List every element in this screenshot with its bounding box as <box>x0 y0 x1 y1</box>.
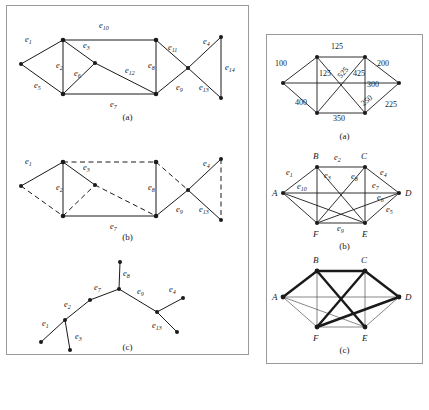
right-panel-b: A B C D E F e1 e2 e3 e4 e5 e6 e7 e8 e9 e… <box>267 145 422 255</box>
vertex <box>63 318 67 322</box>
vertex-F <box>315 111 319 115</box>
edge-label-e10: e10 <box>297 181 307 192</box>
vertex-label-A: A <box>271 188 278 198</box>
left-panel-b: e1 e2 e3 e4 e7 e8 e9 e13 (b) <box>7 128 248 243</box>
vertex <box>154 92 159 97</box>
edge-label-e1: e1 <box>25 34 32 45</box>
vertex <box>61 160 66 165</box>
caption-right-c: (c) <box>267 345 422 355</box>
weight-label: 100 <box>275 59 287 68</box>
edge-A-B-bold <box>283 271 317 297</box>
edge-label-e9: e9 <box>137 286 144 297</box>
edge-label-e5: e5 <box>386 204 393 215</box>
vertices-group <box>19 35 223 100</box>
vertex <box>117 287 121 291</box>
edge-e11 <box>156 162 188 190</box>
weight-label: 400 <box>295 98 307 107</box>
edge-label-e14: e14 <box>225 62 235 73</box>
edge-label-e10: e10 <box>99 20 109 31</box>
edge-label-e7: e7 <box>110 221 118 232</box>
edge-label-e9: e9 <box>176 82 183 93</box>
edge-F-A <box>283 193 317 223</box>
caption-left-b: (b) <box>7 232 248 242</box>
edge-label-e8: e8 <box>148 182 155 193</box>
edge-label-e5: e5 <box>34 80 41 91</box>
weight-label: 125 <box>331 42 343 51</box>
vertex-D <box>397 191 401 195</box>
caption-left-a: (a) <box>7 112 248 122</box>
right-panel-c-graph: A B C D E F <box>267 249 424 359</box>
edge-label-e6: e6 <box>377 192 384 203</box>
vertex-label-B: B <box>313 255 319 265</box>
weight-label: 125 <box>319 69 331 78</box>
caption-right-a: (a) <box>267 131 422 141</box>
vertex <box>219 96 223 100</box>
edge-label-e6: e6 <box>74 68 81 79</box>
edge-labels-group: e1 e2 e3 e7 e8 e9 e4 e13 <box>42 268 176 342</box>
edge-label-e13: e13 <box>199 204 209 215</box>
vertices-group <box>19 157 223 222</box>
vertex-F <box>315 325 320 330</box>
edge-label-e1: e1 <box>42 318 49 329</box>
left-panel-b-graph: e1 e2 e3 e4 e7 e8 e9 e13 <box>7 128 250 243</box>
edge-e2 <box>65 300 90 320</box>
right-panel-c: A B C D E F (c) <box>267 249 422 359</box>
weight-label: 525 <box>336 65 351 80</box>
edge-A-F <box>283 297 317 327</box>
edge-label-e7: e7 <box>94 282 102 293</box>
edge-label-e3: e3 <box>83 40 90 51</box>
edge-e13 <box>188 190 221 220</box>
edge-labels-group: e1 e2 e3 e4 e5 e6 e7 e8 e9 e10 e11 e12 e… <box>25 20 235 110</box>
vertex <box>155 310 159 314</box>
edge-label-e4: e4 <box>203 36 210 47</box>
vertex <box>61 38 66 43</box>
vertex-F <box>315 221 319 225</box>
vertex-C <box>363 165 367 169</box>
edge-C-D-bold <box>365 271 399 297</box>
vertex-label-E: E <box>361 229 368 239</box>
edge-label-e4: e4 <box>203 158 210 169</box>
vertex <box>186 188 190 192</box>
vertex-label-E: E <box>361 333 368 343</box>
edge-label-e2: e2 <box>56 60 63 71</box>
vertex <box>93 183 97 187</box>
vertex <box>154 214 159 219</box>
edge-D-E <box>365 297 399 327</box>
vertex-E <box>363 111 367 115</box>
vertex-E <box>363 221 367 225</box>
edge-e6 <box>63 185 95 216</box>
vertex-A <box>281 81 285 85</box>
left-panel-c: e1 e2 e3 e7 e8 e9 e4 e13 (c) <box>7 242 248 356</box>
edge-label-e8: e8 <box>123 268 130 279</box>
vertex-label-C: C <box>361 151 368 161</box>
vertex <box>154 160 159 165</box>
edge-label-e3: e3 <box>324 170 331 181</box>
edge-e3 <box>63 40 95 63</box>
vertex-label-F: F <box>312 229 319 239</box>
edge-label-e1: e1 <box>25 156 32 167</box>
edges-group <box>21 37 221 98</box>
edge-label-e11: e11 <box>168 42 177 53</box>
edge-label-e9: e9 <box>337 223 344 234</box>
edge-label-e9: e9 <box>176 204 183 215</box>
right-panel-b-graph: A B C D E F e1 e2 e3 e4 e5 e6 e7 e8 e9 e… <box>267 145 424 255</box>
weight-labels-group: 100 125 125 525 425 200 300 400 350 250 … <box>275 42 397 123</box>
edge-e12 <box>95 185 156 216</box>
edge-label-e12: e12 <box>125 65 135 76</box>
vertex-A <box>281 191 285 195</box>
vertex <box>118 260 122 264</box>
right-panel-a-graph: 100 125 125 525 425 200 300 400 350 250 … <box>267 35 424 145</box>
vertices-group <box>39 260 185 352</box>
vertex <box>154 38 159 43</box>
vertex-label-C: C <box>361 255 368 265</box>
vertex-D <box>397 295 402 300</box>
edge-label-e8: e8 <box>351 171 358 182</box>
vertex-C <box>363 269 368 274</box>
left-panel-a: e1 e2 e3 e4 e5 e6 e7 e8 e9 e10 e11 e12 e… <box>7 6 248 126</box>
vertex-label-F: F <box>312 333 319 343</box>
edge-label-e2: e2 <box>334 152 341 163</box>
right-panel-a: 100 125 125 525 425 200 300 400 350 250 … <box>267 35 422 145</box>
edge-e8 <box>119 262 120 289</box>
edge-label-e13: e13 <box>199 82 209 93</box>
vertex <box>181 296 185 300</box>
